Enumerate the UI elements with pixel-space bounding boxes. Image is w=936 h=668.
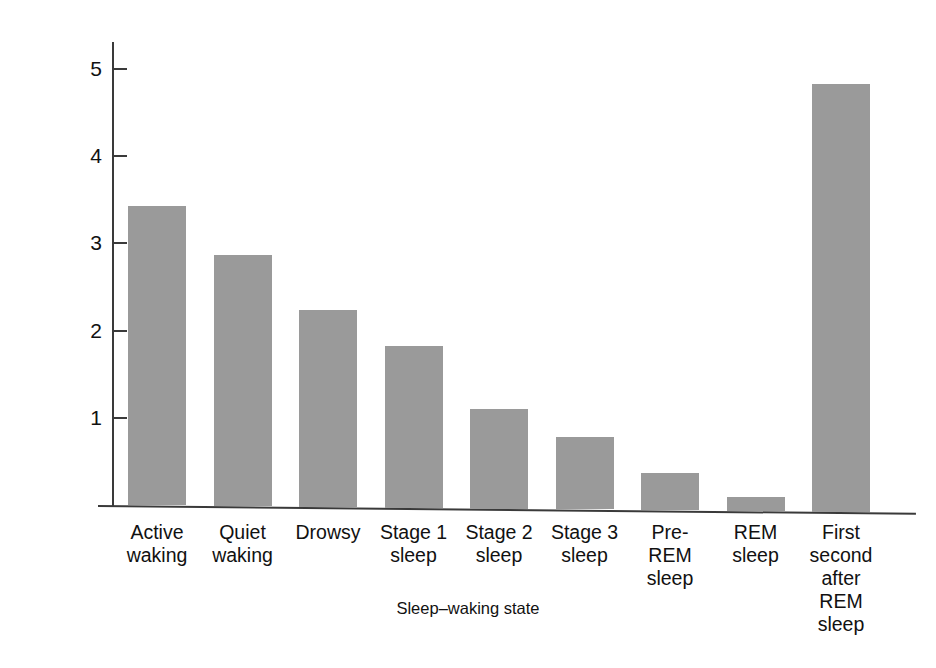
x-axis-title: Sleep–waking state xyxy=(0,599,936,618)
bar xyxy=(812,84,870,512)
bar xyxy=(641,473,699,510)
bar xyxy=(299,310,357,507)
plot-area: 12345 Active wakingQuiet wakingDrowsySta… xyxy=(0,0,936,668)
y-axis-tick-label: 5 xyxy=(66,58,102,79)
y-axis-tick-label: 4 xyxy=(66,145,102,166)
y-axis-tick-label: 2 xyxy=(66,320,102,341)
figure-bar-chart: Mean firing rate (spikes/sec) 12345 Acti… xyxy=(0,0,936,668)
bar xyxy=(214,255,272,506)
y-axis-tick xyxy=(114,330,127,332)
y-axis-line xyxy=(112,42,114,506)
y-axis-tick xyxy=(114,68,127,70)
bar xyxy=(556,437,614,509)
y-axis-tick xyxy=(114,417,127,419)
y-axis-tick xyxy=(114,155,127,157)
y-axis-tick-label: 1 xyxy=(66,407,102,428)
x-axis-tick-label: First second after REM sleep xyxy=(786,521,896,636)
y-axis-tick xyxy=(114,242,127,244)
bar xyxy=(727,497,785,511)
bar xyxy=(385,346,443,507)
bar xyxy=(470,409,528,508)
y-axis-tick-label: 3 xyxy=(66,232,102,253)
bar xyxy=(128,206,186,505)
